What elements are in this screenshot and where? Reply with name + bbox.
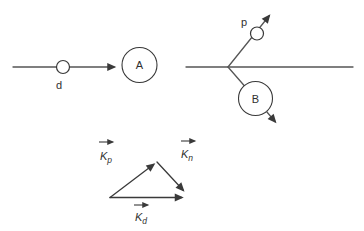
deuteron-circle: [57, 61, 70, 74]
kd-label: Kd: [135, 211, 147, 226]
nucleus-a-label: A: [136, 59, 144, 71]
kn-vector-arrow: [157, 162, 183, 190]
proton-track-arrow: [228, 16, 269, 67]
momentum-triangle-diagram: Kp Kn Kd: [99, 141, 195, 226]
before-collision-diagram: d A: [13, 48, 157, 92]
deuteron-label: d: [56, 79, 62, 91]
proton-circle: [251, 27, 264, 40]
recoil-arrow: [267, 112, 276, 122]
proton-label: p: [241, 16, 247, 28]
diagram-canvas: d A p B Kp Kn Kd: [0, 0, 364, 231]
kp-vector-arrow: [110, 165, 154, 198]
nucleus-b-label: B: [252, 93, 259, 105]
kn-label: Kn: [181, 148, 193, 163]
physics-figure: d A p B Kp Kn Kd: [0, 0, 364, 231]
after-collision-diagram: p B: [186, 16, 353, 122]
kp-label: Kp: [100, 150, 112, 165]
